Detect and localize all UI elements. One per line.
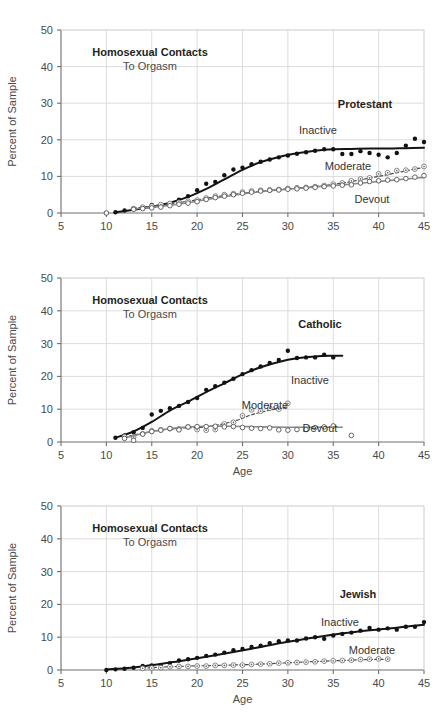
- panel-subtitle: To Orgasm: [123, 60, 177, 72]
- data-point: [186, 201, 191, 206]
- data-point: [231, 424, 236, 429]
- data-point: [131, 666, 135, 670]
- data-point: [168, 426, 173, 431]
- group-label-jewish: Jewish: [340, 588, 377, 600]
- x-tick-label: 10: [100, 220, 112, 232]
- data-point-core: [387, 658, 389, 660]
- data-point: [404, 176, 409, 181]
- data-point: [195, 424, 200, 429]
- data-point: [204, 388, 208, 392]
- x-tick-label: 25: [236, 220, 248, 232]
- data-point: [322, 353, 326, 357]
- data-point: [295, 638, 299, 642]
- data-point-core: [423, 166, 425, 168]
- x-tick-label: 35: [327, 449, 339, 461]
- data-point: [286, 349, 290, 353]
- data-point: [222, 194, 227, 199]
- x-tick-label: 25: [236, 449, 248, 461]
- group-label-protestant: Protestant: [338, 98, 393, 110]
- plot-svg-jewish: 0102030405051015202530354045Percent of S…: [0, 480, 447, 718]
- data-point: [213, 384, 217, 388]
- data-point-core: [341, 660, 343, 662]
- data-point-core: [332, 660, 334, 662]
- data-point: [159, 428, 164, 433]
- chart-panel-jewish: 0102030405051015202530354045Percent of S…: [0, 480, 447, 718]
- y-tick-label: 30: [41, 97, 53, 109]
- data-point: [422, 140, 426, 144]
- data-point: [113, 436, 117, 440]
- y-tick-label: 40: [41, 533, 53, 545]
- data-point: [367, 151, 371, 155]
- data-point: [104, 211, 109, 216]
- data-point: [358, 149, 362, 153]
- y-tick-label: 10: [41, 631, 53, 643]
- data-point-core: [314, 661, 316, 663]
- data-point: [168, 406, 172, 410]
- data-point: [249, 190, 254, 195]
- data-point-core: [360, 178, 362, 180]
- data-point: [304, 636, 308, 640]
- data-point: [258, 426, 263, 431]
- x-tick-label: 5: [58, 449, 64, 461]
- data-point: [177, 202, 182, 207]
- data-point: [422, 173, 427, 178]
- data-point: [240, 165, 244, 169]
- x-tick-label: 5: [58, 677, 64, 689]
- data-point-core: [242, 664, 244, 666]
- data-point: [159, 409, 163, 413]
- data-point: [113, 210, 117, 214]
- y-tick-label: 50: [41, 24, 53, 36]
- data-point: [186, 657, 190, 661]
- x-axis-title: Age: [233, 693, 253, 705]
- x-tick-label: 30: [282, 677, 294, 689]
- data-point: [340, 632, 344, 636]
- data-point: [159, 205, 164, 210]
- data-point: [367, 179, 372, 184]
- data-point: [268, 641, 272, 645]
- data-point-core: [287, 662, 289, 664]
- data-point: [267, 426, 272, 431]
- data-point: [240, 191, 245, 196]
- data-point: [222, 425, 227, 430]
- data-point: [394, 177, 399, 182]
- data-point: [286, 187, 291, 192]
- x-tick-label: 25: [236, 677, 248, 689]
- data-point: [404, 625, 408, 629]
- data-point-core: [178, 666, 180, 668]
- data-point-core: [323, 660, 325, 662]
- data-point: [131, 438, 136, 443]
- data-point-core: [187, 666, 189, 668]
- data-point: [313, 635, 317, 639]
- y-axis-title: Percent of Sample: [6, 315, 18, 406]
- data-point-core: [205, 429, 207, 431]
- x-tick-label: 45: [418, 449, 430, 461]
- x-tick-label: 30: [282, 220, 294, 232]
- data-point-core: [278, 662, 280, 664]
- x-tick-label: 15: [146, 449, 158, 461]
- data-point: [376, 178, 381, 183]
- data-point: [331, 184, 336, 189]
- x-tick-label: 15: [146, 220, 158, 232]
- plot-svg-catholic: 0102030405051015202530354045Percent of S…: [0, 248, 447, 480]
- data-point-core: [378, 658, 380, 660]
- data-point: [331, 355, 335, 359]
- data-point: [322, 184, 327, 189]
- data-point-core: [305, 661, 307, 663]
- data-point-core: [351, 180, 353, 182]
- chart-panel-protestant: 0102030405051015202530354045Percent of S…: [0, 8, 447, 248]
- data-point: [331, 147, 335, 151]
- series-label-moderate: Moderate: [242, 399, 288, 411]
- data-point-core: [260, 663, 262, 665]
- data-point: [168, 203, 173, 208]
- data-point-core: [396, 170, 398, 172]
- data-point: [149, 429, 154, 434]
- data-point: [113, 667, 117, 671]
- x-tick-label: 10: [100, 677, 112, 689]
- data-point-core: [169, 666, 171, 668]
- data-point: [122, 436, 127, 441]
- y-tick-label: 50: [41, 500, 53, 512]
- series-label-moderate: Moderate: [325, 160, 371, 172]
- data-point: [386, 155, 390, 159]
- data-point: [358, 181, 363, 186]
- data-point: [177, 404, 181, 408]
